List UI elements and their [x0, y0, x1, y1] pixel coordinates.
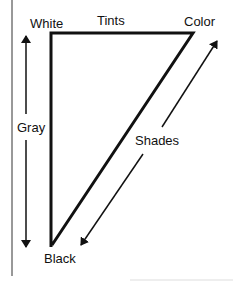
shades-arrow-up — [162, 41, 217, 127]
label-black: Black — [44, 252, 76, 265]
label-white: White — [30, 17, 63, 30]
label-shades: Shades — [135, 134, 179, 147]
label-gray: Gray — [17, 121, 45, 134]
shades-arrow-down — [81, 154, 143, 245]
color-triangle-diagram — [0, 0, 233, 281]
label-color: Color — [184, 15, 215, 28]
label-tints: Tints — [97, 14, 125, 27]
